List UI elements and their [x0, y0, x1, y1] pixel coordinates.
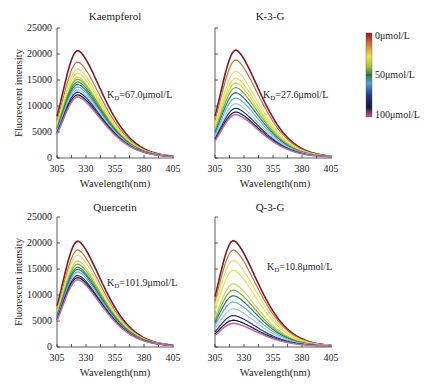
panel-title: Q-3-G [256, 201, 285, 213]
x-tick-label: 405 [324, 163, 339, 174]
y-tick-label: 25000 [27, 22, 52, 33]
y-tick-label: 10000 [27, 100, 52, 111]
x-axis-label: Wavelength(nm) [80, 367, 151, 379]
colorbar-label-mid: 50μmol/L [375, 69, 415, 80]
colorbar-label-top: 0μmol/L [375, 30, 410, 41]
x-tick-label: 305 [208, 163, 223, 174]
y-tick-label: 15000 [27, 74, 52, 85]
x-tick-label: 330 [79, 163, 94, 174]
x-axis-label: Wavelength(nm) [80, 178, 151, 190]
chart-quercetin: Quercetin 25000 20000 15000 10000 5000 0… [0, 195, 215, 387]
chart-k3g: K-3-G 305 330 355 380 405 Wavelength(nm)… [200, 0, 430, 195]
y-axis-label: Fluorescent intensity [13, 237, 24, 326]
spectrum-line [57, 250, 173, 345]
x-tick-label: 330 [237, 163, 252, 174]
spectrum-line [215, 260, 331, 345]
x-tick-label: 305 [50, 352, 65, 363]
kd-annotation: KD=10.8μmol/L [267, 261, 332, 274]
x-tick-label: 305 [208, 352, 223, 363]
kd-annotation: KD=101.9μmol/L [107, 277, 177, 290]
x-tick-label: 355 [266, 163, 281, 174]
curves [57, 241, 173, 345]
x-tick-label: 380 [137, 163, 152, 174]
panel-title: Kaempferol [89, 10, 142, 22]
colorbar-label-bottom: 100μmol/L [375, 109, 420, 120]
y-tick-label: 0 [47, 152, 52, 163]
x-tick-label: 405 [166, 163, 181, 174]
x-tick-label: 380 [137, 352, 152, 363]
y-axis-label: Fluorescent intensity [13, 48, 24, 137]
y-tick-label: 20000 [27, 237, 52, 248]
chart-q3g: Q-3-G 305 330 355 380 405 Wavelength(nm)… [200, 195, 430, 387]
y-tick-label: 5000 [32, 315, 52, 326]
x-axis: 305 330 355 380 405 [50, 347, 181, 363]
panel-title: Quercetin [93, 201, 137, 213]
x-axis: 305 330 355 380 405 [208, 158, 339, 174]
x-tick-label: 330 [237, 352, 252, 363]
y-axis: 25000 20000 15000 10000 5000 0 [27, 211, 57, 352]
kd-annotation: KD=27.6μmol/L [263, 89, 328, 102]
x-axis: 305 330 355 380 405 [50, 158, 181, 174]
x-tick-label: 305 [50, 163, 65, 174]
x-axis-label: Wavelength(nm) [240, 367, 311, 379]
y-tick-label: 20000 [27, 48, 52, 59]
y-tick-label: 10000 [27, 289, 52, 300]
curves [215, 241, 331, 346]
x-tick-label: 355 [266, 352, 281, 363]
x-tick-label: 380 [295, 163, 310, 174]
y-axis: 25000 20000 15000 10000 5000 0 [27, 22, 57, 163]
curves [215, 50, 331, 157]
spectrum-line [57, 73, 173, 156]
y-tick-label: 15000 [27, 263, 52, 274]
x-tick-label: 405 [324, 352, 339, 363]
kd-annotation: KD=67.0μmol/L [107, 89, 172, 102]
x-tick-label: 330 [79, 352, 94, 363]
x-tick-label: 355 [108, 352, 123, 363]
y-tick-label: 25000 [27, 211, 52, 222]
chart-kaempferol: Kaempferol 25000 20000 15000 10000 5000 … [0, 0, 215, 195]
x-tick-label: 355 [108, 163, 123, 174]
y-tick-label: 5000 [32, 126, 52, 137]
panel-title: K-3-G [256, 10, 285, 22]
y-tick-label: 0 [47, 341, 52, 352]
x-tick-label: 405 [166, 352, 181, 363]
curves [57, 51, 173, 157]
x-axis-label: Wavelength(nm) [240, 178, 311, 190]
x-tick-label: 380 [295, 352, 310, 363]
x-axis: 305 330 355 380 405 [208, 347, 339, 363]
spectrum-line [57, 51, 173, 156]
